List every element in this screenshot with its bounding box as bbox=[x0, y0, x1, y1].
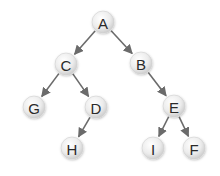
node-label: I bbox=[151, 141, 155, 158]
edge-a-b bbox=[111, 31, 132, 54]
tree-diagram: ACBGDEHIF bbox=[0, 0, 220, 176]
node-label: H bbox=[67, 141, 78, 158]
node-c: C bbox=[55, 53, 77, 75]
node-label: E bbox=[169, 99, 179, 116]
node-d: D bbox=[85, 96, 107, 118]
edge-d-h bbox=[79, 117, 90, 136]
node-a: A bbox=[92, 11, 114, 33]
edge-b-e bbox=[148, 73, 166, 96]
node-i: I bbox=[142, 137, 164, 159]
node-label: B bbox=[136, 56, 146, 73]
node-label: G bbox=[28, 100, 40, 117]
node-f: F bbox=[183, 137, 205, 159]
node-h: H bbox=[61, 137, 83, 159]
node-label: C bbox=[61, 57, 72, 74]
edges-layer bbox=[42, 31, 189, 137]
edge-e-f bbox=[179, 117, 188, 136]
node-label: A bbox=[98, 15, 108, 32]
node-e: E bbox=[163, 95, 185, 117]
node-label: D bbox=[91, 100, 102, 117]
node-g: G bbox=[23, 96, 45, 118]
node-b: B bbox=[130, 52, 152, 74]
edge-c-g bbox=[42, 74, 59, 97]
node-label: F bbox=[189, 141, 198, 158]
edge-e-i bbox=[159, 117, 169, 137]
edge-c-d bbox=[73, 74, 89, 96]
edge-a-c bbox=[75, 31, 95, 54]
